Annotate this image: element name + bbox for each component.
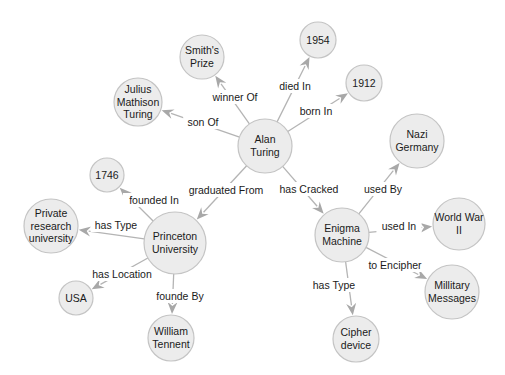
edge-label: died In bbox=[279, 80, 311, 92]
edge-label: founde By bbox=[156, 290, 204, 302]
node-label: Germany bbox=[395, 141, 439, 153]
node-label: 1912 bbox=[352, 77, 376, 89]
node-label: II bbox=[456, 224, 462, 236]
edge-label: has Type bbox=[95, 219, 138, 231]
edge-label-group: used By bbox=[360, 182, 405, 196]
edge-label: has Type bbox=[313, 279, 356, 291]
knowledge-graph: winner Ofdied Inborn Inson Ofgraduated F… bbox=[0, 0, 505, 375]
node-y1746[interactable]: 1746 bbox=[90, 158, 124, 192]
edge-label-group: has Type bbox=[91, 218, 142, 232]
node-label: Nazi bbox=[406, 128, 427, 140]
node-military_messages[interactable]: MillitaryMessages bbox=[425, 265, 479, 319]
edge-label: winner Of bbox=[212, 91, 258, 103]
node-william_tennent[interactable]: WilliamTennent bbox=[148, 315, 194, 361]
edge-line bbox=[89, 231, 145, 239]
edge-label: to Encipher bbox=[368, 259, 422, 271]
edge-label: graduated From bbox=[189, 184, 264, 196]
node-label: Turing bbox=[250, 146, 280, 158]
edge-label-group: graduated From bbox=[184, 183, 268, 197]
node-label: 1954 bbox=[306, 34, 330, 46]
node-label: Cipher bbox=[341, 326, 372, 338]
node-alan_turing[interactable]: AlanTuring bbox=[238, 119, 292, 173]
node-label: device bbox=[341, 339, 372, 351]
node-label: research bbox=[31, 220, 72, 232]
arrow-head-icon bbox=[335, 93, 348, 104]
node-label: Mathison bbox=[117, 96, 160, 108]
edge-label: used By bbox=[364, 183, 403, 195]
node-private_research[interactable]: Privateresearchuniversity bbox=[24, 199, 78, 253]
edge-label: born In bbox=[300, 105, 333, 117]
node-princeton[interactable]: PrincetonUniversity bbox=[144, 212, 206, 274]
node-label: Alan bbox=[254, 133, 275, 145]
node-label: William bbox=[154, 325, 188, 337]
edge-label: used In bbox=[382, 220, 417, 232]
node-label: 1746 bbox=[95, 169, 119, 181]
node-y1954[interactable]: 1954 bbox=[300, 22, 336, 58]
node-label: Tennent bbox=[152, 338, 189, 350]
node-label: Messages bbox=[428, 292, 476, 304]
edge-label: has Location bbox=[92, 268, 152, 280]
edge-label-group: founded In bbox=[123, 193, 185, 207]
node-label: Prize bbox=[190, 57, 214, 69]
node-ww2[interactable]: World WarII bbox=[433, 198, 485, 250]
node-label: University bbox=[152, 243, 199, 255]
node-nazi_germany[interactable]: NaziGermany bbox=[390, 114, 444, 168]
node-label: USA bbox=[65, 292, 87, 304]
node-label: university bbox=[29, 232, 74, 244]
edge-label-group: died In bbox=[272, 79, 317, 93]
edge-label-group: born In bbox=[293, 104, 338, 118]
node-label: Enigma bbox=[324, 222, 360, 234]
edge-label: has Cracked bbox=[280, 183, 339, 195]
node-y1912[interactable]: 1912 bbox=[346, 65, 382, 101]
node-label: Smith's bbox=[185, 44, 219, 56]
edge-label: founded In bbox=[129, 194, 179, 206]
edge-label-group: winner Of bbox=[207, 90, 263, 104]
edge-label: son Of bbox=[188, 116, 219, 128]
edge-label-group: has Cracked bbox=[275, 182, 343, 196]
node-label: Millitary bbox=[434, 279, 470, 291]
node-label: World War bbox=[434, 211, 484, 223]
edge-label-group: to Encipher bbox=[361, 258, 429, 272]
node-label: Turing bbox=[123, 108, 153, 120]
node-julius[interactable]: JuliusMathisonTuring bbox=[114, 78, 162, 126]
node-cipher_device[interactable]: Cipherdevice bbox=[333, 316, 379, 362]
node-label: Princeton bbox=[153, 230, 198, 242]
node-label: Private bbox=[35, 207, 68, 219]
node-enigma[interactable]: EnigmaMachine bbox=[315, 208, 369, 262]
node-label: Machine bbox=[322, 235, 362, 247]
node-smiths_prize[interactable]: Smith'sPrize bbox=[180, 35, 224, 79]
node-label: Julius bbox=[125, 83, 152, 95]
node-usa[interactable]: USA bbox=[59, 281, 93, 315]
edge-label-group: has Location bbox=[85, 267, 158, 281]
edge-label-group: son Of bbox=[183, 115, 223, 129]
edge-label-group: used In bbox=[376, 219, 421, 233]
arrow-head-icon bbox=[388, 163, 399, 175]
edge-label-group: has Type bbox=[309, 278, 360, 292]
arrow-head-icon bbox=[215, 76, 226, 89]
edge-label-group: founde By bbox=[152, 289, 208, 303]
